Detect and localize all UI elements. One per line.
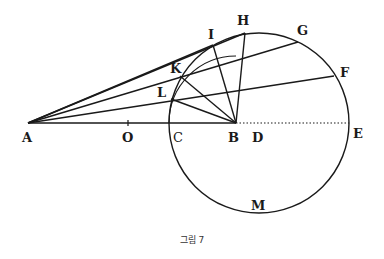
label-D: D: [252, 131, 263, 144]
segment-HB: [236, 33, 245, 123]
label-G: G: [297, 24, 308, 37]
ray-AF: [28, 76, 334, 123]
label-K: K: [170, 62, 181, 75]
segment-LB: [171, 99, 236, 123]
label-O: O: [122, 131, 133, 144]
label-E: E: [353, 127, 363, 140]
diagram-canvas: [0, 0, 384, 259]
label-I: I: [208, 28, 214, 41]
label-C: C: [173, 131, 183, 144]
label-B: B: [228, 131, 239, 144]
segment-KB: [180, 76, 236, 123]
label-A: A: [22, 131, 32, 144]
ray-AI: [28, 45, 213, 123]
label-M: M: [251, 199, 265, 212]
ray-AG: [28, 42, 298, 123]
label-H: H: [237, 14, 249, 27]
label-F: F: [340, 66, 349, 79]
geometry-figure: A O C B D E F G H I K L M 그림 7: [0, 0, 384, 259]
label-L: L: [157, 86, 166, 99]
figure-caption: 그림 7: [0, 233, 384, 246]
